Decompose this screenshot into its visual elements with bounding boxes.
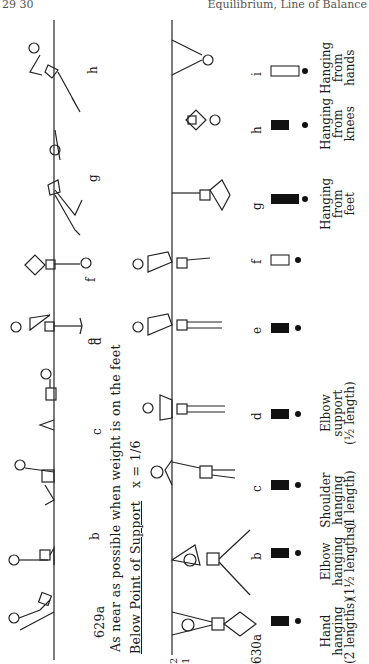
- figure-lower-c: [151, 460, 235, 485]
- figure-upper-g: [48, 130, 82, 235]
- label-lower-f: f: [250, 260, 264, 264]
- label-lower-g: g: [250, 202, 264, 210]
- desc-hanging-knees: Hanging from knees: [320, 98, 356, 150]
- desc-shoulder-hanging: Shoulder hanging (1 length): [320, 470, 356, 530]
- desc-hanging-hands: Hanging from hands: [320, 42, 356, 94]
- figure-upper-a: [9, 593, 54, 630]
- figure-number-upper: 629a: [92, 605, 107, 638]
- figure-lower-h: [186, 110, 220, 130]
- label-lower-e: e: [250, 327, 264, 334]
- desc-elbow-hanging: Elbow hanging (1½ lengths): [320, 522, 356, 600]
- label-lower-d: d: [250, 412, 264, 420]
- label-upper-h: h: [86, 66, 100, 74]
- figure-lower-g: [172, 180, 230, 210]
- figure-number-lower: 630a: [250, 634, 264, 664]
- scale-mark-2: 2: [168, 658, 179, 664]
- notation-symbols: [271, 66, 308, 626]
- label-upper-e: e: [84, 338, 98, 345]
- desc-hanging-feet: Hanging from feet: [320, 178, 356, 230]
- label-upper-c: c: [90, 428, 104, 435]
- caption-upper: As near as possible when weight is on th…: [108, 344, 123, 652]
- stick-figure-diagram: [0, 0, 369, 664]
- label-lower-h: h: [250, 126, 264, 134]
- desc-elbow-support: Elbow support (½ length): [320, 381, 356, 445]
- label-lower-i: i: [250, 72, 264, 76]
- figure-upper-b: [9, 548, 54, 565]
- label-upper-f: f: [84, 278, 98, 282]
- desc-hand-hanging: Hand hanging (2 lengths): [320, 598, 356, 664]
- heading-below-support: Below Point of Support: [128, 501, 143, 654]
- figure-lower-b: [172, 530, 250, 595]
- label-lower-b: b: [250, 552, 264, 560]
- formula: x = 1/6: [128, 440, 143, 488]
- figure-upper-f: [25, 255, 91, 275]
- figure-upper-c: [15, 460, 54, 505]
- label-upper-g: g: [86, 174, 100, 182]
- scale-mark-1: 1: [180, 658, 191, 664]
- document-page: 29 30 Equilibrium, Line of Balance: [0, 0, 369, 664]
- figure-lower-i: [172, 40, 213, 75]
- figure-upper-e: [11, 315, 82, 334]
- figure-lower-e: [133, 314, 222, 335]
- label-lower-c: c: [250, 485, 264, 492]
- figure-lower-d: [143, 395, 225, 420]
- label-upper-b: b: [88, 532, 102, 540]
- figure-lower-a: [172, 612, 256, 636]
